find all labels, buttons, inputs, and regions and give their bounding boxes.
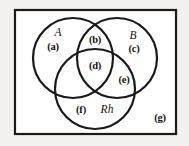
region-label-b: (b) [89,35,101,46]
region-label-a: (a) [47,42,59,53]
set-label-b: B [129,30,136,42]
set-label-rh: Rh [101,104,114,116]
region-label-e: (e) [118,75,129,86]
region-label-d: (d) [89,61,101,72]
universe-rectangle [15,10,176,134]
venn-diagram-figure: A B Rh (a) (b) (c) (d) (e) (f) (g) [0,0,189,146]
region-label-c: (c) [128,44,139,55]
region-label-f: (f) [76,105,86,116]
set-label-a: A [54,27,61,39]
venn-diagram-canvas [0,0,189,146]
region-label-g: (g) [154,113,166,124]
